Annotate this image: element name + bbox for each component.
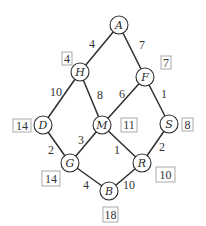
edge-weight-label: 1 xyxy=(161,87,167,101)
edge-weight-label: 3 xyxy=(78,133,84,147)
node-label: G xyxy=(66,157,75,170)
weighted-graph-diagram: 47108612312410 AHFDMSGRB 4714118141018 xyxy=(0,0,206,226)
node-s: S xyxy=(160,115,178,133)
node-label: M xyxy=(95,119,108,132)
edge-weight-label: 1 xyxy=(114,143,120,157)
edge-weight-label: 7 xyxy=(139,38,145,52)
distance-value: 14 xyxy=(45,172,57,186)
edge-weight-label: 8 xyxy=(97,88,103,102)
edge-weight-label: 2 xyxy=(159,140,165,154)
edge-weight-label: 4 xyxy=(83,178,89,192)
distance-box-g: 14 xyxy=(42,171,60,186)
distance-box-b: 18 xyxy=(103,207,118,222)
node-label: B xyxy=(104,185,113,198)
distance-box-f: 7 xyxy=(161,56,171,70)
node-label: S xyxy=(165,118,173,131)
node-b: B xyxy=(100,182,118,200)
edge-weight-label: 4 xyxy=(89,37,95,51)
node-g: G xyxy=(61,154,79,172)
distance-box-s: 8 xyxy=(182,118,193,132)
node-label: D xyxy=(38,119,48,132)
edge-weight-label: 10 xyxy=(50,85,62,99)
distance-value: 4 xyxy=(64,52,70,66)
node-d: D xyxy=(34,116,52,134)
distance-value: 8 xyxy=(185,118,191,132)
distance-value: 18 xyxy=(105,208,117,222)
distance-value: 10 xyxy=(160,168,172,182)
distance-value: 11 xyxy=(123,118,135,132)
distance-box-m: 11 xyxy=(121,118,137,132)
distance-value: 14 xyxy=(16,119,28,133)
node-label: A xyxy=(114,19,123,32)
edge-weight-label: 6 xyxy=(119,87,125,101)
node-a: A xyxy=(110,16,128,34)
distance-box-r: 10 xyxy=(156,167,175,182)
node-h: H xyxy=(71,63,89,81)
node-r: R xyxy=(133,154,151,172)
distance-box-h: 4 xyxy=(62,52,72,66)
node-label: F xyxy=(140,71,149,84)
edge-weight-label: 2 xyxy=(48,143,54,157)
distance-box-d: 14 xyxy=(13,119,31,133)
distance-value: 7 xyxy=(163,56,169,70)
node-f: F xyxy=(136,68,154,86)
node-label: R xyxy=(137,157,146,170)
node-label: H xyxy=(74,66,85,79)
node-m: M xyxy=(93,116,111,134)
edge-weight-label: 10 xyxy=(123,178,135,192)
